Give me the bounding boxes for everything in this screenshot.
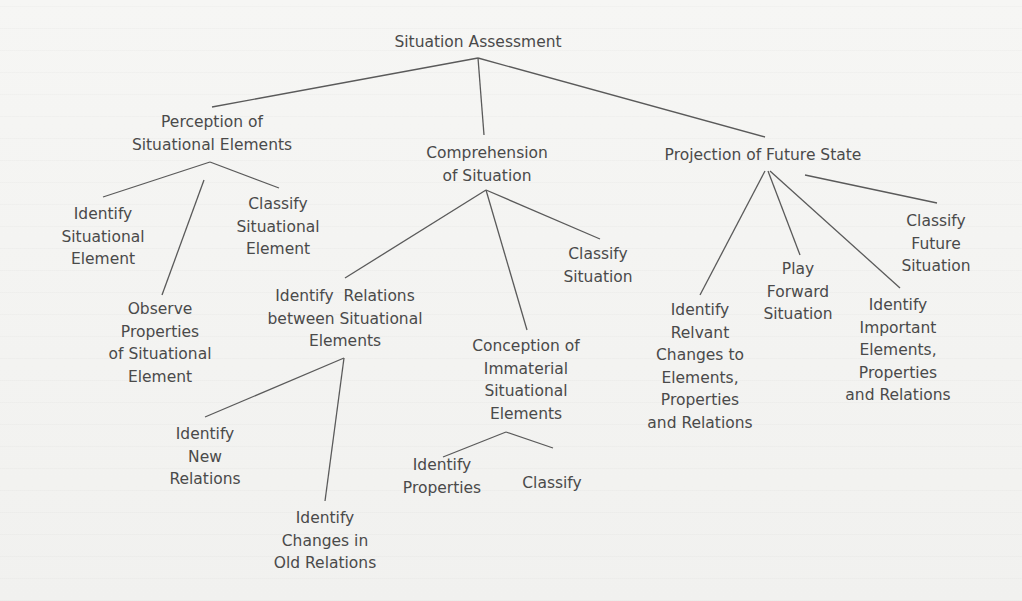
edge-root-projection <box>478 58 765 137</box>
node-label: Projection of Future State <box>665 144 862 167</box>
node-identify-important-elements: Identify Important Elements, Properties … <box>845 294 950 407</box>
node-label: Identify <box>403 454 481 477</box>
node-situation-assessment: Situation Assessment <box>394 31 561 54</box>
node-label: Situation <box>901 255 970 278</box>
node-conception-immaterial: Conception of Immaterial Situational Ele… <box>472 335 580 425</box>
node-label: Situation Assessment <box>394 31 561 54</box>
node-label: Conception of <box>472 335 580 358</box>
edge-perception-observe <box>162 180 204 295</box>
node-label: Play <box>763 258 832 281</box>
node-label: Changes to <box>647 344 752 367</box>
edge-root-comprehension <box>478 58 484 135</box>
node-label: Identify <box>61 203 144 226</box>
node-perception-of-situational-elements: Perception of Situational Elements <box>132 111 292 156</box>
node-identify-relvant-changes: Identify Relvant Changes to Elements, Pr… <box>647 299 752 434</box>
node-label: Classify <box>901 210 970 233</box>
node-label: Situation <box>563 266 632 289</box>
node-comprehension-of-situation: Comprehension of Situation <box>426 142 548 187</box>
edge-perception-classify <box>210 162 279 188</box>
edge-conception-classify <box>506 432 553 448</box>
node-label: and Relations <box>647 412 752 435</box>
node-label: Changes in <box>274 530 376 553</box>
node-label: Identify <box>169 423 240 446</box>
situation-assessment-diagram: Situation Assessment Perception of Situa… <box>0 0 1022 601</box>
node-label: of Situational <box>109 343 212 366</box>
node-label: Relations <box>169 468 240 491</box>
node-label: Elements <box>268 330 423 353</box>
node-label: Classify <box>522 472 581 495</box>
edge-perception-identify <box>103 162 210 197</box>
edge-projection-classify-future <box>805 175 937 203</box>
node-identify-new-relations: Identify New Relations <box>169 423 240 491</box>
node-identify-relations: Identify Relations between Situational E… <box>268 285 423 353</box>
node-label: of Situation <box>426 165 548 188</box>
node-label: and Relations <box>845 384 950 407</box>
node-label: Perception of <box>132 111 292 134</box>
edge-projection-relvant-changes <box>700 171 765 295</box>
node-label: Situational <box>61 226 144 249</box>
node-label: Elements, <box>647 367 752 390</box>
node-label: Properties <box>403 477 481 500</box>
node-label: Forward <box>763 281 832 304</box>
node-observe-properties: Observe Properties of Situational Elemen… <box>109 298 212 388</box>
edge-comprehension-classify <box>486 190 600 239</box>
edge-comprehension-conception <box>486 190 527 330</box>
node-label: Identify <box>845 294 950 317</box>
node-label: Situational <box>236 216 319 239</box>
node-label: Observe <box>109 298 212 321</box>
node-label: Properties <box>647 389 752 412</box>
node-label: Element <box>236 238 319 261</box>
node-label: Identify Relations <box>268 285 423 308</box>
node-label: between Situational <box>268 308 423 331</box>
node-label: Comprehension <box>426 142 548 165</box>
node-classify-situation: Classify Situation <box>563 243 632 288</box>
edge-relations-changes <box>325 358 344 501</box>
node-classify: Classify <box>522 472 581 495</box>
node-label: Properties <box>845 362 950 385</box>
node-label: Elements, <box>845 339 950 362</box>
node-projection-of-future-state: Projection of Future State <box>665 144 862 167</box>
node-identify-situational-element: Identify Situational Element <box>61 203 144 271</box>
edge-comprehension-relations <box>345 190 486 278</box>
node-label: Classify <box>563 243 632 266</box>
node-label: Future <box>901 233 970 256</box>
node-label: New <box>169 446 240 469</box>
node-label: Situational <box>472 380 580 403</box>
node-label: Situation <box>763 303 832 326</box>
node-label: Classify <box>236 193 319 216</box>
node-identify-changes-old-relations: Identify Changes in Old Relations <box>274 507 376 575</box>
edge-root-perception <box>212 58 478 107</box>
node-label: Relvant <box>647 322 752 345</box>
node-label: Identify <box>274 507 376 530</box>
node-label: Elements <box>472 403 580 426</box>
node-label: Important <box>845 317 950 340</box>
edge-relations-new <box>205 358 344 417</box>
node-label: Old Relations <box>274 552 376 575</box>
node-identify-properties: Identify Properties <box>403 454 481 499</box>
node-label: Properties <box>109 321 212 344</box>
node-label: Identify <box>647 299 752 322</box>
node-label: Element <box>109 366 212 389</box>
node-label: Element <box>61 248 144 271</box>
node-classify-situational-element: Classify Situational Element <box>236 193 319 261</box>
node-classify-future-situation: Classify Future Situation <box>901 210 970 278</box>
node-play-forward-situation: Play Forward Situation <box>763 258 832 326</box>
node-label: Immaterial <box>472 358 580 381</box>
node-label: Situational Elements <box>132 134 292 157</box>
